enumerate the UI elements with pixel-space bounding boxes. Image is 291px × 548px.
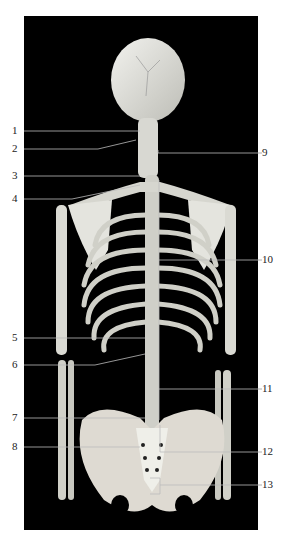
label-11: 11 bbox=[262, 383, 273, 394]
label-4: 4 bbox=[12, 193, 18, 204]
label-10: 10 bbox=[262, 254, 273, 265]
label-9: 9 bbox=[262, 147, 268, 158]
label-13: 13 bbox=[262, 479, 273, 490]
skeleton-figure: 1 2 3 4 5 6 7 8 9 10 11 12 13 bbox=[0, 0, 291, 548]
label-1: 1 bbox=[12, 125, 18, 136]
skeleton-illustration bbox=[0, 0, 291, 548]
label-12: 12 bbox=[262, 446, 273, 457]
label-6: 6 bbox=[12, 359, 18, 370]
label-7: 7 bbox=[12, 412, 18, 423]
label-5: 5 bbox=[12, 332, 18, 343]
skull bbox=[111, 38, 185, 122]
label-3: 3 bbox=[12, 170, 18, 181]
label-2: 2 bbox=[12, 143, 18, 154]
label-8: 8 bbox=[12, 441, 18, 452]
